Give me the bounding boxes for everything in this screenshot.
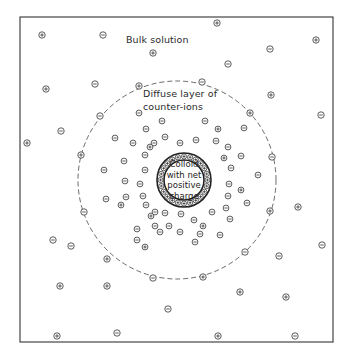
negative-ion-icon [255,172,261,178]
negative-ion-icon [197,231,203,237]
negative-ion-icon [244,200,250,206]
negative-ion-icon [100,32,106,38]
negative-ion-icon [318,112,324,118]
positive-ion-icon [150,50,156,56]
negative-ion-icon [58,128,64,134]
negative-ion-icon [157,229,163,235]
negative-ion-icon [227,216,233,222]
bulk-solution-label: Bulk solution [126,34,189,46]
negative-ion-icon [143,126,149,132]
negative-ion-icon [225,61,231,67]
negative-ion-icon [101,167,107,173]
negative-ion-icon [134,237,140,243]
negative-ion-icon [134,226,140,232]
diffuse-layer-label-line2: counter-ions [143,101,217,113]
positive-ion-icon [39,32,45,38]
positive-ion-icon [104,283,110,289]
negative-ion-icon [136,110,142,116]
positive-ion-icon [214,20,220,26]
positive-ion-icon [142,244,148,250]
negative-ion-icon [225,144,231,150]
negative-ion-icon [241,125,247,131]
negative-ion-icon [68,243,74,249]
negative-ion-icon [112,135,118,141]
negative-ion-icon [121,158,127,164]
positive-ion-icon [267,208,273,214]
negative-ion-icon [228,165,234,171]
negative-ion-icon [162,134,168,140]
positive-ion-icon [215,126,221,132]
negative-ion-icon [202,118,208,124]
positive-ion-icon [247,110,253,116]
diffuse-layer-label: Diffuse layer of counter-ions [143,88,217,113]
positive-ion-icon [136,83,142,89]
negative-ion-icon [123,194,129,200]
positive-ion-icon [54,333,60,339]
negative-ion-icon [103,196,109,202]
positive-ion-icon [57,283,63,289]
negative-ion-icon [319,242,325,248]
positive-ion-icon [200,223,206,229]
negative-ion-icon [81,209,87,215]
negative-ion-icon [242,249,248,255]
negative-ion-icon [130,140,136,146]
colloid-label-line4: charge [162,191,206,202]
negative-ion-icon [223,205,229,211]
positive-ion-icon [104,256,110,262]
positive-ion-icon [268,92,274,98]
colloid-label-line3: positive [162,180,206,191]
positive-ion-icon [295,204,301,210]
negative-ion-icon [193,137,199,143]
negative-ion-icon [178,211,184,217]
negative-ion-icon [225,193,231,199]
positive-ion-icon [237,289,243,295]
positive-ion-icon [238,187,244,193]
negative-ion-icon [165,306,171,312]
positive-ion-icon [147,144,153,150]
negative-ion-icon [276,253,282,259]
negative-ion-icon [137,181,143,187]
negative-ion-icon [152,209,158,215]
negative-ion-icon [192,239,198,245]
negative-ion-icon [97,113,103,119]
negative-ion-icon [150,275,156,281]
negative-ion-icon [191,217,197,223]
positive-ion-icon [313,37,319,43]
positive-ion-icon [118,202,124,208]
diffuse-layer-label-line1: Diffuse layer of [143,88,217,100]
colloid-label-line1: Colloid [162,159,206,170]
positive-ion-icon [221,155,227,161]
negative-ion-icon [142,152,148,158]
positive-ion-icon [43,86,49,92]
positive-ion-icon [283,294,289,300]
negative-ion-icon [177,229,183,235]
negative-ion-icon [209,209,215,215]
negative-ion-icon [159,118,165,124]
negative-ion-icon [226,181,232,187]
positive-ion-icon [181,201,186,206]
negative-ion-icon [143,202,149,208]
colloid-label: Colloid with net positive charge [162,159,206,201]
negative-ion-icon [267,46,273,52]
colloid-label-line2: with net [162,170,206,181]
negative-ion-icon [152,223,158,229]
positive-ion-icon [24,140,30,146]
negative-ion-icon [122,178,128,184]
negative-ion-icon [140,193,146,199]
negative-ion-icon [142,167,148,173]
positive-ion-icon [200,274,206,280]
negative-ion-icon [166,223,172,229]
positive-ion-icon [78,152,84,158]
positive-ion-icon [215,333,221,339]
negative-ion-icon [213,138,219,144]
negative-ion-icon [238,153,244,159]
negative-ion-icon [177,140,183,146]
negative-ion-icon [217,232,223,238]
negative-ion-icon [269,154,275,160]
negative-ion-icon [114,330,120,336]
negative-ion-icon [50,237,56,243]
negative-ion-icon [292,333,298,339]
negative-ion-icon [162,210,168,216]
negative-ion-icon [92,81,98,87]
negative-ion-icon [199,79,205,85]
